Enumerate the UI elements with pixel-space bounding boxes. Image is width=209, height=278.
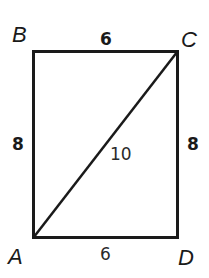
side-label-cd: 8 [187,134,199,154]
side-label-ad: 6 [100,244,111,264]
vertex-label-a: A [6,244,23,269]
side-label-ab: 8 [12,134,24,154]
vertex-label-c: C [181,27,197,52]
side-label-bc: 6 [100,29,112,49]
diagonal-ac [34,52,178,238]
rectangle-diagram: B C A D 6 8 8 6 10 [0,0,209,278]
vertex-label-d: D [178,245,194,270]
diagonal-label-ac: 10 [110,144,132,164]
vertex-label-b: B [12,22,27,47]
